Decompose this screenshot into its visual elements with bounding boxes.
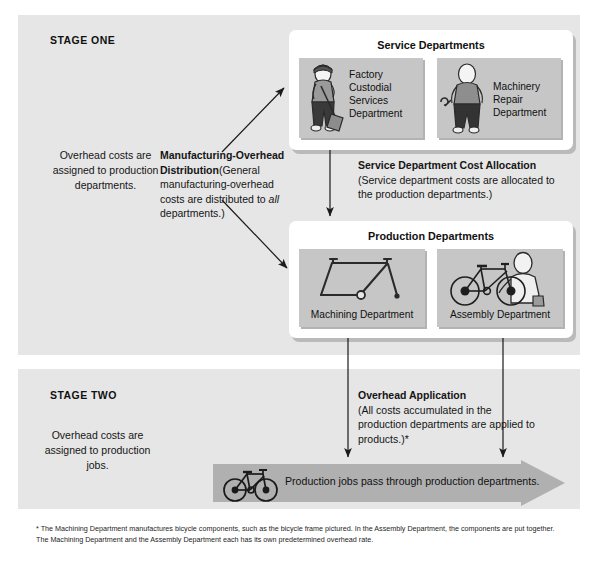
production-departments-group: Production Departments [289,221,573,338]
service-departments-group: Service Departments [289,30,573,150]
production-jobs-flow-label: Production jobs pass through production … [285,475,539,487]
factory-custodial-services-department-label: Factory Custodial Services Department [349,68,421,120]
stage-two-left-note: Overhead costs are assigned to productio… [40,428,155,473]
production-departments-title: Production Departments [289,230,573,242]
janitor-with-broom-icon [299,58,351,138]
stage-one-label: STAGE ONE [50,34,115,46]
service-department-cost-allocation-title: Service Department Cost Allocation [358,159,536,171]
manufacturing-overhead-distribution-body-2: departments.) [160,207,225,219]
mechanic-with-wrench-icon [437,58,495,138]
manufacturing-overhead-distribution-emphasis: all [269,193,280,205]
stage-one-left-note: Overhead costs are assigned to productio… [48,148,163,193]
overhead-application-note: Overhead Application (All costs accumula… [358,388,543,446]
machinery-repair-department-label: Machinery Repair Department [493,80,559,119]
bicycle-frame-icon [299,249,425,309]
assembly-department-label: Assembly Department [437,308,563,321]
assembly-department-card[interactable]: Assembly Department [437,249,563,327]
manufacturing-overhead-distribution-note: Manufacturing-Overhead Distribution(Gene… [160,148,295,221]
machinery-repair-department-card[interactable]: Machinery Repair Department [437,58,561,138]
factory-custodial-services-department-card[interactable]: Factory Custodial Services Department [299,58,423,138]
overhead-application-title: Overhead Application [358,389,466,401]
service-departments-title: Service Departments [289,39,573,51]
stage-two-label: STAGE TWO [50,389,117,401]
machining-department-card[interactable]: Machining Department [299,249,425,327]
worker-assembling-bicycle-icon [437,249,563,311]
footnote-text: * The Machining Department manufactures … [36,524,564,545]
bicycle-icon [222,462,282,504]
service-department-cost-allocation-body: (Service department costs are allocated … [358,174,555,201]
diagram-canvas: STAGE ONE Overhead costs are assigned to… [0,0,598,574]
machining-department-label: Machining Department [299,308,425,321]
service-department-cost-allocation-note: Service Department Cost Allocation (Serv… [358,158,558,202]
overhead-application-body: (All costs accumulated in the production… [358,404,535,445]
